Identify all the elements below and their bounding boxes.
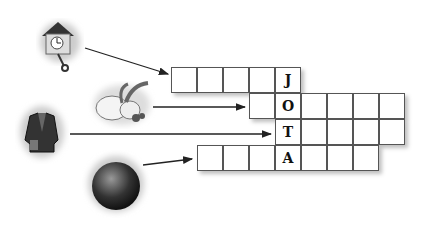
cell-r3-c3[interactable] (327, 119, 353, 145)
arrow-clock (85, 48, 168, 74)
cell-r1-c4[interactable] (249, 67, 275, 93)
cell-r1-c2[interactable] (197, 67, 223, 93)
cell-r1-c1[interactable] (171, 67, 197, 93)
cell-r2-c1[interactable] (249, 93, 275, 119)
cell-r1-c5[interactable]: J (275, 67, 301, 93)
cell-r4-c7[interactable] (353, 145, 379, 171)
arrow-ball (143, 159, 192, 165)
cell-r1-c3[interactable] (223, 67, 249, 93)
cell-r4-c3[interactable] (249, 145, 275, 171)
cell-r4-c1[interactable] (197, 145, 223, 171)
cell-r4-c2[interactable] (223, 145, 249, 171)
cell-r4-c4[interactable]: A (275, 145, 301, 171)
cell-r2-c4[interactable] (327, 93, 353, 119)
cell-r3-c2[interactable] (301, 119, 327, 145)
cell-r3-c1[interactable]: T (275, 119, 301, 145)
cell-r4-c5[interactable] (301, 145, 327, 171)
cell-r2-c3[interactable] (301, 93, 327, 119)
cell-r3-c4[interactable] (353, 119, 379, 145)
cell-r3-c5[interactable] (379, 119, 405, 145)
rabbit-icon (94, 83, 150, 125)
jacket-icon (20, 106, 64, 158)
ball-icon (88, 156, 144, 212)
cell-r2-c5[interactable] (353, 93, 379, 119)
cell-r4-c6[interactable] (327, 145, 353, 171)
cell-r2-c6[interactable] (379, 93, 405, 119)
cuckoo-clock-icon (40, 22, 80, 71)
cell-r2-c2[interactable]: O (275, 93, 301, 119)
